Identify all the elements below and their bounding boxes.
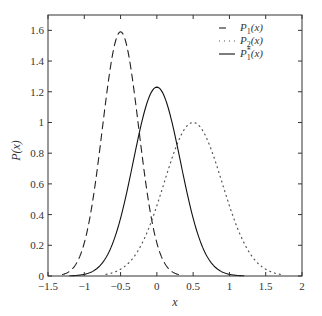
y-tick-label: 0.4 bbox=[30, 209, 44, 221]
plot-curves bbox=[63, 32, 281, 276]
y-axis-ticks: 00.20.40.60.811.21.41.6 bbox=[30, 24, 302, 282]
x-tick-label: 0 bbox=[154, 280, 160, 292]
curve-2 bbox=[106, 122, 280, 274]
y-tick-label: 1.2 bbox=[30, 86, 44, 98]
x-axis-label: x bbox=[171, 295, 178, 309]
x-tick-label: −1 bbox=[78, 280, 90, 292]
x-tick-label: 1.5 bbox=[259, 280, 273, 292]
curve-1 bbox=[63, 32, 179, 275]
y-tick-label: 1.4 bbox=[30, 55, 44, 67]
y-tick-label: 1.6 bbox=[30, 24, 44, 36]
chart: −1.5−1−0.500.511.52 00.20.40.60.811.21.4… bbox=[0, 0, 322, 316]
x-tick-label: 0.5 bbox=[186, 280, 200, 292]
y-tick-label: 0 bbox=[39, 270, 45, 282]
y-tick-label: 0.8 bbox=[30, 147, 44, 159]
plot-frame bbox=[48, 15, 302, 276]
y-tick-label: 1 bbox=[39, 116, 45, 128]
legend: P1(x)P2(x)P*1(x) bbox=[219, 21, 263, 62]
x-axis-ticks: −1.5−1−0.500.511.52 bbox=[38, 15, 305, 292]
x-tick-label: 2 bbox=[299, 280, 305, 292]
x-tick-label: −0.5 bbox=[111, 280, 131, 292]
x-tick-label: 1 bbox=[227, 280, 233, 292]
y-axis-label: P(x) bbox=[9, 140, 23, 162]
legend-label: P*1(x) bbox=[239, 46, 263, 62]
y-tick-label: 0.6 bbox=[30, 178, 44, 190]
y-tick-label: 0.2 bbox=[30, 239, 44, 251]
